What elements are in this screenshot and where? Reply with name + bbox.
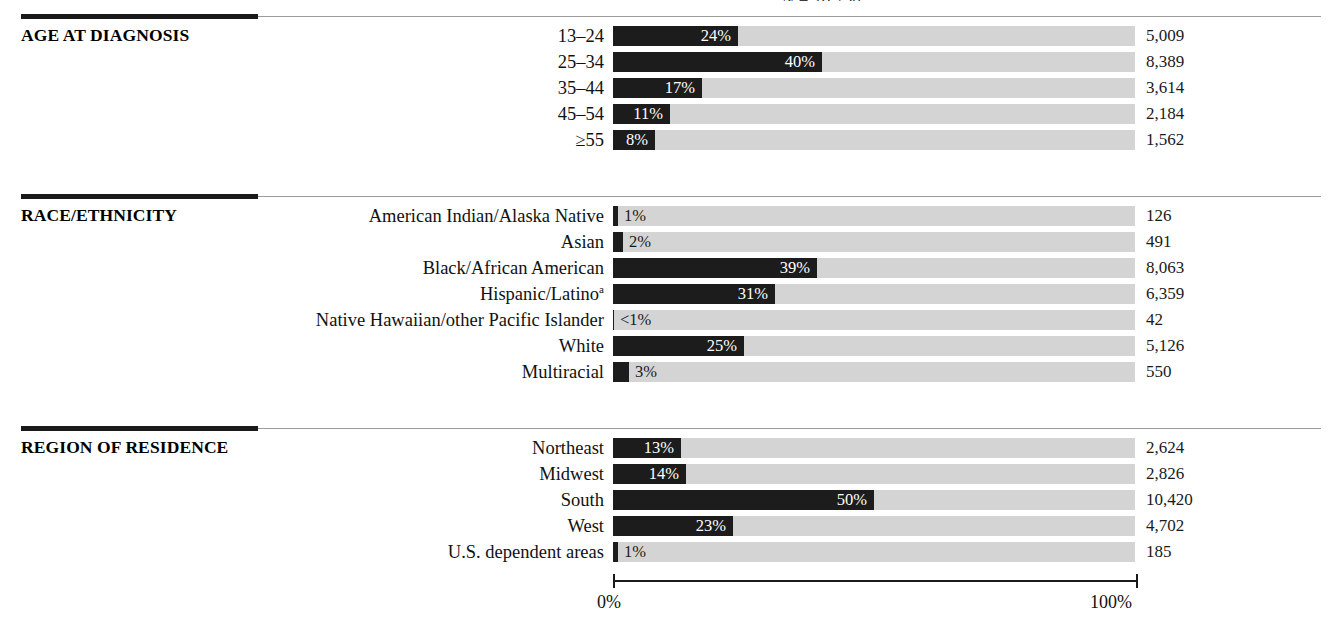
bar-track: 39% [613,258,1135,278]
bar-row-count: 8,063 [1146,257,1184,279]
section-rule [21,16,1321,17]
section-rule [21,196,1321,197]
bar-row: American Indian/Alaska Native1%126 [0,204,1343,230]
bar-row-label-text: 45–54 [558,104,604,124]
bar-row-label-text: 13–24 [558,26,604,46]
bar-fill [613,362,629,382]
bar-row-label-footnote-marker: a [599,283,604,295]
bar-row: White25%5,126 [0,334,1343,360]
bar-rows: American Indian/Alaska Native1%126Asian2… [0,204,1343,386]
bar-row: Native Hawaiian/other Pacific Islander<1… [0,308,1343,334]
bar-row-label: Northeast [532,437,604,459]
bar-track: 13% [613,438,1135,458]
bar-value-label: 2% [629,232,651,252]
bar-row: Northeast13%2,624 [0,436,1343,462]
bar-value-label: 3% [635,362,657,382]
bar-row-count: 4,702 [1146,515,1184,537]
figure-total-caption: N = 20,758 [0,0,1343,1]
bar-row-count: 8,389 [1146,51,1184,73]
bar-track: 24% [613,26,1135,46]
bar-row: South50%10,420 [0,488,1343,514]
bar-row-count: 2,624 [1146,437,1184,459]
bar-row-label-text: Northeast [532,438,604,458]
bar-row-label: Multiracial [522,361,604,383]
bar-row-label-text: Midwest [539,464,604,484]
axis-label-min: 0% [597,592,621,613]
bar-row-label-text: 35–44 [558,78,604,98]
bar-row: Asian2%491 [0,230,1343,256]
bar-row-count: 42 [1146,309,1163,331]
bar-row-label-text: Hispanic/Latino [480,284,599,304]
bar-row-count: 5,009 [1146,25,1184,47]
bar-row-label: Black/African American [423,257,604,279]
bar-row-label-text: Native Hawaiian/other Pacific Islander [316,310,604,330]
bar-row-label-text: West [567,516,604,536]
bar-rows: 13–2424%5,00925–3440%8,38935–4417%3,6144… [0,24,1343,154]
bar-track: 1% [613,206,1135,226]
bar-row-label-text: Multiracial [522,362,604,382]
bar-value-label: <1% [620,310,651,330]
bar-value-label: 17% [665,78,695,98]
bar-value-label: 31% [738,284,768,304]
bar-row: 45–5411%2,184 [0,102,1343,128]
bar-row: Midwest14%2,826 [0,462,1343,488]
bar-row-count: 3,614 [1146,77,1184,99]
bar-row-label-text: Asian [561,232,604,252]
bar-row-label: American Indian/Alaska Native [369,205,604,227]
bar-fill [613,542,618,562]
bar-track: 3% [613,362,1135,382]
bar-row-label: 25–34 [558,51,604,73]
bar-value-label: 11% [633,104,663,124]
bar-track: 11% [613,104,1135,124]
bar-fill [613,206,618,226]
bar-row-count: 2,826 [1146,463,1184,485]
bar-row: Multiracial3%550 [0,360,1343,386]
bar-fill [613,490,874,510]
bar-fill [613,232,623,252]
bar-track: 8% [613,130,1135,150]
bar-track: 25% [613,336,1135,356]
bar-row-label-text: White [559,336,604,356]
bar-row-count: 1,562 [1146,129,1184,151]
bar-row: Hispanic/Latinoa31%6,359 [0,282,1343,308]
bar-row: 25–3440%8,389 [0,50,1343,76]
bar-track: 31% [613,284,1135,304]
bar-row-label-text: U.S. dependent areas [448,542,604,562]
bar-row-label-text: South [561,490,604,510]
bar-track: 23% [613,516,1135,536]
bar-row-count: 185 [1146,541,1172,563]
bar-row: West23%4,702 [0,514,1343,540]
bar-row-count: 550 [1146,361,1172,383]
bar-value-label: 23% [696,516,726,536]
figure-root: N = 20,758 AGE AT DIAGNOSIS13–2424%5,009… [0,0,1343,640]
axis-line [613,580,1138,582]
bar-row-label: 35–44 [558,77,604,99]
bar-track: <1% [613,310,1135,330]
bar-row-label: Native Hawaiian/other Pacific Islander [316,309,604,331]
bar-track: 14% [613,464,1135,484]
bar-value-label: 14% [649,464,679,484]
bar-row-label: U.S. dependent areas [448,541,604,563]
bar-value-label: 1% [624,206,646,226]
bar-row-label-text: 25–34 [558,52,604,72]
axis-tick-max [1136,574,1138,588]
bar-row: Black/African American39%8,063 [0,256,1343,282]
bar-value-label: 24% [701,26,731,46]
bar-row-count: 491 [1146,231,1172,253]
bar-row-label: Asian [561,231,604,253]
bar-value-label: 39% [780,258,810,278]
bar-row-label: Midwest [539,463,604,485]
bar-track: 2% [613,232,1135,252]
bar-track: 17% [613,78,1135,98]
bar-row-label: South [561,489,604,511]
bar-row-label-text: Black/African American [423,258,604,278]
bar-row-count: 5,126 [1146,335,1184,357]
bar-track: 50% [613,490,1135,510]
bar-value-label: 1% [624,542,646,562]
bar-value-label: 50% [837,490,867,510]
bar-row: 35–4417%3,614 [0,76,1343,102]
bar-row-label: 45–54 [558,103,604,125]
bar-row-count: 6,359 [1146,283,1184,305]
bar-row-label: ≥55 [575,129,604,151]
bar-row-label: White [559,335,604,357]
